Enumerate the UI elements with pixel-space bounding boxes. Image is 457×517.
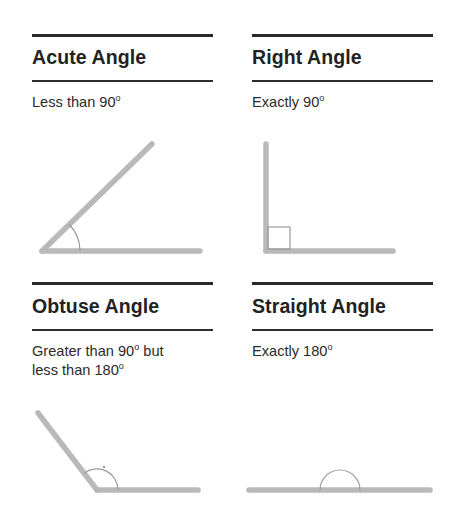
right-angle-square-marker [268,227,290,249]
angle-arc-marker [320,470,360,490]
obtuse-angle-figure [38,413,198,490]
right-angle-figure [266,144,393,251]
angle-dot-marker [103,466,105,468]
angle-arc-marker [69,225,80,252]
acute-angle-figure [42,144,200,251]
angle-figures [0,0,457,517]
straight-angle-figure [249,470,430,490]
